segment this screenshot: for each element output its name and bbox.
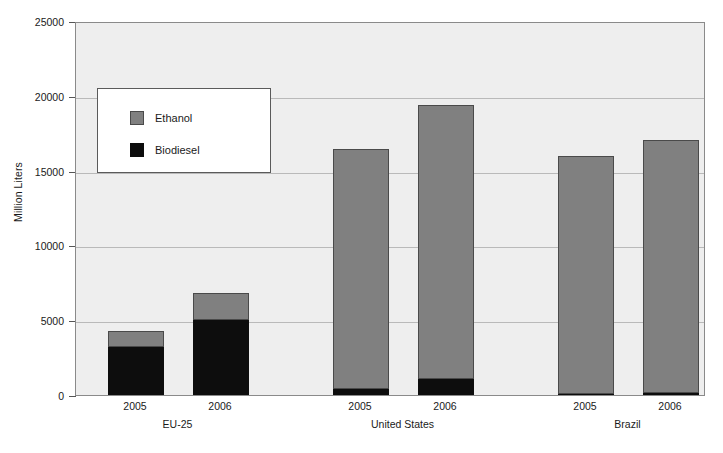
bar-segment-ethanol: [558, 156, 614, 394]
figure-caption: [0, 444, 723, 453]
bar-eu-25-2005: [108, 331, 164, 395]
y-axis-title: Million Liters: [12, 132, 24, 252]
bar-segment-biodiesel: [418, 379, 474, 395]
bar-brazil-2005: [558, 156, 614, 395]
x-tick-label: 2006: [180, 400, 260, 412]
y-tick-label: 5000: [0, 316, 64, 327]
bar-united-states-2006: [418, 105, 474, 395]
x-tick-label: 2005: [95, 400, 175, 412]
legend-swatch-biodiesel-icon: [130, 143, 144, 157]
legend-item-biodiesel: Biodiesel: [130, 143, 200, 157]
bar-brazil-2006: [643, 140, 699, 395]
x-group-label-br: Brazil: [548, 418, 708, 430]
x-group-label-us: United States: [323, 418, 483, 430]
bar-united-states-2005: [333, 149, 389, 395]
bar-segment-biodiesel: [193, 320, 249, 395]
y-tick-label: 0: [0, 391, 64, 402]
chart-legend: Ethanol Biodiesel: [97, 88, 271, 173]
x-tick-label: 2006: [630, 400, 710, 412]
x-tick-label: 2006: [405, 400, 485, 412]
y-tick-label: 20000: [0, 92, 64, 103]
x-group-label-eu: EU-25: [98, 418, 258, 430]
plot-area: [75, 22, 705, 396]
y-tick-label: 15000: [0, 167, 64, 178]
bar-segment-ethanol: [333, 149, 389, 389]
y-tick-label: 10000: [0, 241, 64, 252]
legend-swatch-ethanol-icon: [130, 111, 144, 125]
chart-figure: Million Liters 0500010000150002000025000…: [0, 0, 723, 453]
x-tick-label: 2005: [545, 400, 625, 412]
bar-segment-biodiesel: [643, 393, 699, 395]
legend-label-ethanol: Ethanol: [155, 112, 192, 124]
legend-item-ethanol: Ethanol: [130, 111, 192, 125]
bar-segment-ethanol: [418, 105, 474, 379]
legend-label-biodiesel: Biodiesel: [155, 144, 200, 156]
y-tick-mark: [69, 396, 76, 397]
y-tick-label: 25000: [0, 17, 64, 28]
x-tick-label: 2005: [320, 400, 400, 412]
bar-segment-biodiesel: [333, 389, 389, 395]
bar-segment-ethanol: [643, 140, 699, 393]
bar-segment-biodiesel: [108, 347, 164, 395]
bar-segment-ethanol: [108, 331, 164, 347]
bar-eu-25-2006: [193, 293, 249, 395]
bar-segment-ethanol: [193, 293, 249, 320]
